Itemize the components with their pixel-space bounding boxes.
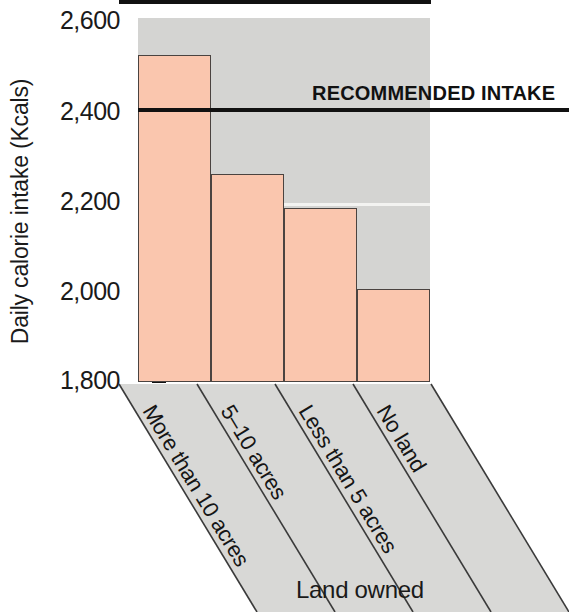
x-axis-line [119, 0, 431, 4]
plot-area [138, 18, 430, 382]
recommended-intake-line [138, 108, 569, 112]
x-axis-title: Land owned [296, 576, 424, 604]
category-base-area: More than 10 acres 5–10 acres Less than … [0, 382, 569, 612]
bar-no-land [357, 289, 430, 382]
bar-more-than-10-acres [138, 55, 211, 382]
y-tick-label-2000: 2,000 [28, 277, 120, 306]
bar-less-than-5-acres [284, 208, 357, 382]
bar-chart-figure: Daily calorie intake (Kcals) 2,600 2,400… [0, 0, 569, 612]
recommended-intake-label: RECOMMENDED INTAKE [312, 82, 555, 105]
base-trapezoid [0, 382, 569, 612]
bar-5-10-acres [211, 174, 284, 382]
bar-series [138, 18, 430, 382]
y-tick-label-2600: 2,600 [28, 6, 120, 35]
y-tick-label-2400: 2,400 [28, 97, 120, 126]
y-tick-label-2200: 2,200 [28, 187, 120, 216]
